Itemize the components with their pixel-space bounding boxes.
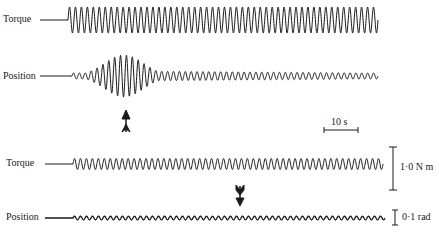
position-top-trace xyxy=(40,55,378,97)
down-arrow-icon xyxy=(236,185,244,206)
position-bottom-trace xyxy=(45,216,385,220)
torque-bottom-trace xyxy=(45,159,383,170)
double-arrow-icon xyxy=(122,110,130,132)
torque-top-trace xyxy=(40,7,378,33)
time-scale-bar xyxy=(324,127,358,133)
traces-canvas xyxy=(0,0,439,237)
position-scale-bar xyxy=(392,210,398,225)
torque-scale-bar xyxy=(389,147,397,190)
